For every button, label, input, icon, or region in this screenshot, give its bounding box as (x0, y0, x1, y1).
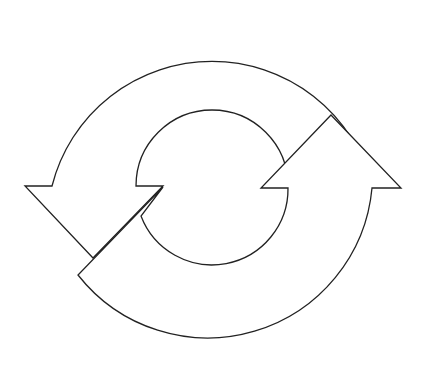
cycle-diagram (0, 0, 428, 374)
